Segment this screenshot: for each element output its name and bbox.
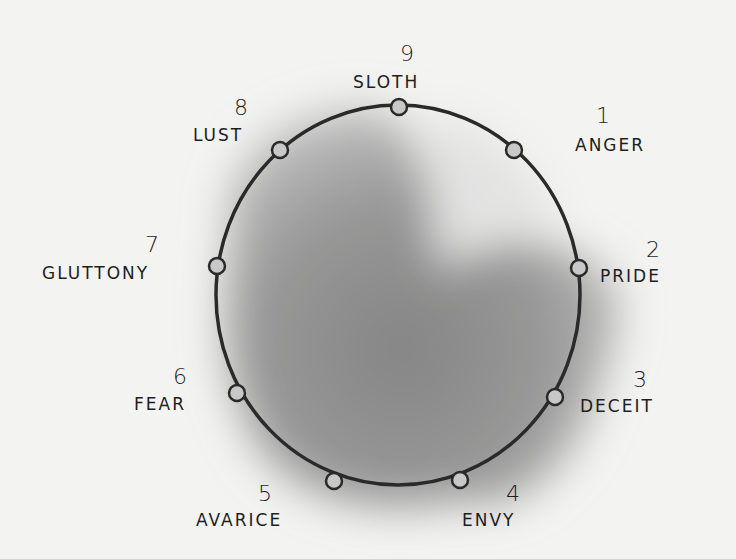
point-node-gluttony [209, 258, 225, 274]
point-number-6: 6 [173, 365, 187, 389]
point-number-2: 2 [646, 238, 660, 262]
point-label-sloth: SLOTH [353, 72, 419, 92]
enneagram-diagram: 1ANGER2PRIDE3DECEIT4ENVY5AVARICE6FEAR7GL… [0, 0, 736, 559]
watercolor-wash [225, 110, 618, 508]
point-label-lust: LUST [193, 125, 243, 145]
point-label-gluttony: GLUTTONY [42, 263, 149, 283]
point-node-anger [506, 142, 522, 158]
point-label-envy: ENVY [462, 510, 515, 530]
point-node-avarice [326, 473, 342, 489]
point-number-5: 5 [258, 482, 272, 506]
point-label-pride: PRIDE [600, 266, 661, 286]
point-node-pride [571, 260, 587, 276]
point-number-9: 9 [400, 42, 414, 66]
point-node-deceit [547, 389, 563, 405]
point-label-anger: ANGER [575, 135, 645, 155]
point-label-avarice: AVARICE [196, 510, 282, 530]
point-number-1: 1 [596, 104, 610, 128]
point-number-4: 4 [506, 482, 520, 506]
point-node-lust [272, 142, 288, 158]
point-number-7: 7 [145, 233, 159, 257]
point-label-fear: FEAR [134, 394, 186, 414]
point-number-3: 3 [633, 368, 647, 392]
point-node-sloth [391, 99, 407, 115]
point-node-envy [452, 472, 468, 488]
point-number-8: 8 [234, 96, 248, 120]
point-node-fear [229, 385, 245, 401]
point-label-deceit: DECEIT [580, 396, 654, 416]
